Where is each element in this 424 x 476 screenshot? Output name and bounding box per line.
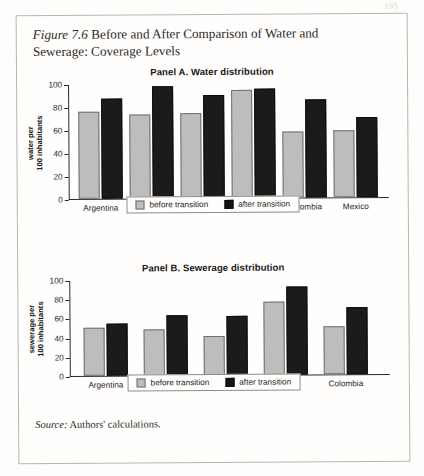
page-number: 195	[385, 2, 399, 11]
panel-a-legend: before transition after transition	[126, 195, 299, 213]
panel-b-title: Panel B. Sewerage distribution	[17, 261, 409, 274]
bar-group: Argentina	[83, 280, 128, 376]
source-text: Authors' calculations.	[69, 418, 160, 430]
y-axis-tick	[64, 108, 68, 109]
y-axis-tick	[66, 338, 70, 339]
y-axis-tick-label: 80	[54, 296, 63, 305]
bar-after-transition	[356, 116, 377, 197]
y-axis-tick	[65, 300, 69, 301]
bar-group: Bolivia	[129, 83, 174, 198]
y-axis-tick-label: 100	[48, 80, 62, 89]
bar-after-transition	[254, 88, 276, 197]
scanned-page: 195 Figure 7.6 Before and After Comparis…	[0, 0, 424, 476]
panel-b-legend: before transition after transition	[128, 373, 301, 391]
legend-label-before: before transition	[151, 378, 210, 387]
bar-before-transition	[144, 329, 165, 375]
y-axis-tick-label: 0	[58, 195, 63, 204]
bar-after-transition	[101, 99, 123, 199]
bar-after-transition	[305, 100, 327, 198]
bar-before-transition	[180, 113, 202, 198]
figure-number: Figure 7.6	[33, 27, 88, 42]
bar-group: Brazil	[203, 279, 248, 375]
figure-caption: Figure 7.6 Before and After Comparison o…	[33, 25, 363, 60]
x-axis-category-label: Mexico	[343, 202, 369, 211]
y-axis-tick	[64, 131, 68, 132]
panel-a-y-axis-title-line2: 100 inhabitants	[35, 115, 44, 170]
bar-before-transition	[78, 111, 100, 199]
y-axis-tick	[65, 281, 69, 282]
source-label: Source:	[35, 419, 67, 430]
panel-b: Panel B. Sewerage distribution sewerage …	[17, 261, 409, 263]
legend-label-before: before transition	[149, 200, 208, 209]
legend-item-after: after transition	[225, 378, 291, 387]
bar-before-transition	[324, 326, 345, 374]
legend-label-after: after transition	[238, 200, 290, 209]
y-axis-tick-label: 60	[53, 126, 62, 135]
legend-item-before: before transition	[137, 378, 210, 387]
bar-after-transition	[203, 94, 225, 198]
legend-swatch-after-icon	[224, 200, 233, 209]
bar-before-transition	[129, 114, 151, 198]
bar-group: Argentina	[78, 84, 123, 199]
source-note: Source: Authors' calculations.	[35, 418, 161, 430]
panel-a-title: Panel A. Water distribution	[16, 65, 408, 78]
y-axis-tick	[65, 177, 69, 178]
y-axis-tick-label: 80	[53, 103, 62, 112]
y-axis-tick	[65, 319, 69, 320]
bar-before-transition	[84, 328, 105, 376]
bar-before-transition	[263, 302, 284, 375]
bar-group: Colombia	[323, 278, 368, 374]
bar-group: Chile	[231, 83, 276, 198]
legend-swatch-before-icon	[135, 200, 144, 209]
y-axis-tick-label: 20	[53, 172, 62, 181]
panel-a: Panel A. Water distribution water per 10…	[16, 65, 408, 67]
bar-after-transition	[286, 286, 308, 374]
legend-item-after: after transition	[224, 200, 290, 209]
bar-before-transition	[204, 336, 225, 375]
bar-group: Bolivia	[143, 279, 188, 375]
x-axis-category-label: Colombia	[329, 379, 364, 388]
y-axis-tick	[64, 154, 68, 155]
bar-before-transition	[282, 132, 303, 198]
bar-after-transition	[226, 316, 247, 375]
bar-group: Brazil	[180, 83, 225, 198]
y-axis-tick-label: 60	[54, 315, 63, 324]
bar-before-transition	[231, 90, 253, 198]
y-axis-tick	[64, 85, 68, 86]
y-axis-tick	[66, 377, 70, 378]
bar-before-transition	[333, 130, 354, 197]
y-axis-tick	[65, 200, 69, 201]
bar-group: Colombia	[282, 82, 327, 197]
bar-after-transition	[346, 307, 367, 374]
legend-swatch-before-icon	[137, 378, 146, 387]
panel-b-y-axis	[69, 281, 71, 377]
bar-after-transition	[152, 87, 174, 199]
bar-group: Mexico	[333, 82, 378, 197]
panel-a-y-axis-title: water per 100 inhabitants	[22, 85, 49, 200]
bar-after-transition	[107, 324, 128, 376]
legend-item-before: before transition	[135, 200, 208, 209]
x-axis-category-label: Argentina	[88, 381, 123, 390]
panel-b-plot-area: 020406080100ArgentinaBoliviaBrazilChileC…	[69, 279, 390, 377]
y-axis-tick-label: 40	[53, 149, 62, 158]
bar-after-transition	[166, 316, 187, 376]
panel-a-plot-area: 020406080100ArgentinaBoliviaBrazilChileC…	[68, 83, 389, 200]
y-axis-tick-label: 40	[54, 334, 63, 343]
legend-label-after: after transition	[239, 378, 291, 387]
y-axis-tick-label: 100	[50, 276, 64, 285]
bar-group: Chile	[263, 278, 308, 374]
panel-a-y-axis	[68, 85, 70, 200]
x-axis-category-label: Argentina	[83, 204, 118, 213]
y-axis-tick-label: 20	[55, 353, 64, 362]
panel-b-y-axis-title-line2: 100 inhabitants	[36, 301, 45, 356]
panel-b-y-axis-title: sewerage per 100 inhabitants	[23, 281, 50, 377]
figure-container: Figure 7.6 Before and After Comparison o…	[16, 13, 411, 464]
y-axis-tick-label: 0	[59, 372, 64, 381]
y-axis-tick	[66, 358, 70, 359]
legend-swatch-after-icon	[225, 378, 234, 387]
